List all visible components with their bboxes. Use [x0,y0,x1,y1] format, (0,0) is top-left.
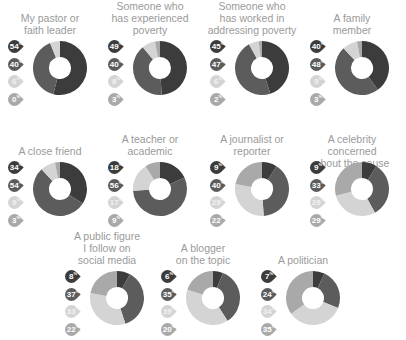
percent-badge: 20% [161,323,179,336]
chart-title-line: A blogger [153,242,253,254]
chart-title-line: A celebrity concerned [302,133,402,157]
percent-badge: 3% [108,93,126,106]
percent-label: 40% [210,179,226,192]
chart-title: Someone whohas experiencedpoverty [100,0,200,36]
percent-badge: 9% [310,161,328,174]
percent-badge: 22% [210,214,228,227]
chart-title-line: A family [302,12,402,24]
percent-label: 37% [65,288,81,301]
chart-title-line: A public figure [57,230,157,242]
percent-badge: 54% [8,40,26,53]
percent-badge: 29% [310,196,328,209]
percent-badge: 6% [210,75,228,88]
legend-badges: 18%56%17%9% [108,161,126,231]
donut-segment [90,293,125,325]
percent-badge: 33% [65,305,83,318]
chart-title-line: My pastor or [0,12,100,24]
percent-label: 29% [210,196,226,209]
percent-label: 33% [310,179,326,192]
percent-label: 6% [8,75,24,88]
percent-label: 49% [108,40,124,53]
legend-badges: 8%37%33%22% [65,270,83,340]
donut-chart [234,161,290,217]
percent-badge: 40% [108,58,126,71]
donut-segment [60,162,87,203]
chart-title-line: A politician [253,254,353,266]
percent-badge: 24% [261,288,279,301]
chart-title-line: I follow on [57,242,157,254]
legend-badges: 34%54%9%3% [8,161,26,231]
percent-badge: 9% [8,196,26,209]
chart-title-line: Someone who [202,0,302,12]
percent-badge: 6% [161,270,179,283]
percent-label: 3% [310,93,326,106]
percent-badge: 40% [210,179,228,192]
percent-badge: 34% [261,305,279,318]
percent-badge: 33% [310,179,328,192]
percent-label: 40% [8,58,24,71]
chart-title-line: reporter [202,145,302,157]
percent-label: 47% [210,58,226,71]
percent-label: 35% [161,288,177,301]
percent-label: 17% [108,196,124,209]
donut-chart [334,161,390,217]
donut-segment [335,162,362,196]
percent-badge: 29% [210,196,228,209]
chart-title: A politician [253,254,353,266]
percent-label: 29% [310,214,326,227]
percent-label: 54% [8,179,24,192]
chart-title-line: poverty [100,24,200,36]
chart-title: Someone whohas worked inaddressing pover… [202,0,302,36]
percent-label: 40% [310,40,326,53]
percent-badge: 47% [210,58,228,71]
donut-chart [334,40,390,96]
percent-label: 48% [310,58,326,71]
chart-title: My pastor orfaith leader [0,12,100,36]
percent-label: 34% [8,161,24,174]
donut-segment [235,162,262,187]
chart-title: A familymember [302,12,402,36]
chart-title-line: Someone who [100,0,200,12]
percent-badge: 9% [210,161,228,174]
chart-title-line: has experienced [100,12,200,24]
percent-badge: 54% [8,179,26,192]
legend-badges: 40%48%9%3% [310,40,328,110]
percent-label: 9% [108,214,124,227]
percent-badge: 3% [310,93,328,106]
percent-label: 9% [210,161,226,174]
percent-label: 54% [8,40,24,53]
percent-label: 45% [210,40,226,53]
percent-badge: 29% [310,214,328,227]
chart-title: A public figureI follow onsocial media [57,230,157,266]
legend-badges: 49%40%8%3% [108,40,126,110]
percent-label: 2% [210,93,226,106]
donut-chart [185,270,241,326]
percent-label: 22% [65,323,81,336]
donut-chart [132,40,188,96]
percent-label: 56% [108,179,124,192]
percent-badge: 3% [8,214,26,227]
percent-label: 3% [8,214,24,227]
chart-title-line: addressing poverty [202,24,302,36]
percent-badge: 8% [108,75,126,88]
percent-badge: 6% [8,75,26,88]
percent-label: 24% [261,288,277,301]
percent-badge: 35% [161,288,179,301]
percent-badge: 48% [310,58,328,71]
percent-badge: 56% [108,179,126,192]
donut-chart [89,270,145,326]
chart-title-line: A teacher or [100,133,200,145]
chart-title-line: faith leader [0,24,100,36]
chart-title-line: academic [100,145,200,157]
donut-chart [32,40,88,96]
percent-badge: 9% [108,214,126,227]
percent-label: 9% [8,196,24,209]
chart-title-line: has worked in [202,12,302,24]
chart-title: A teacher oracademic [100,133,200,157]
percent-label: 8% [65,270,81,283]
percent-label: 34% [261,305,277,318]
percent-badge: 37% [65,288,83,301]
percent-badge: 35% [261,323,279,336]
percent-badge: 8% [65,270,83,283]
chart-title: A bloggeron the topic [153,242,253,266]
